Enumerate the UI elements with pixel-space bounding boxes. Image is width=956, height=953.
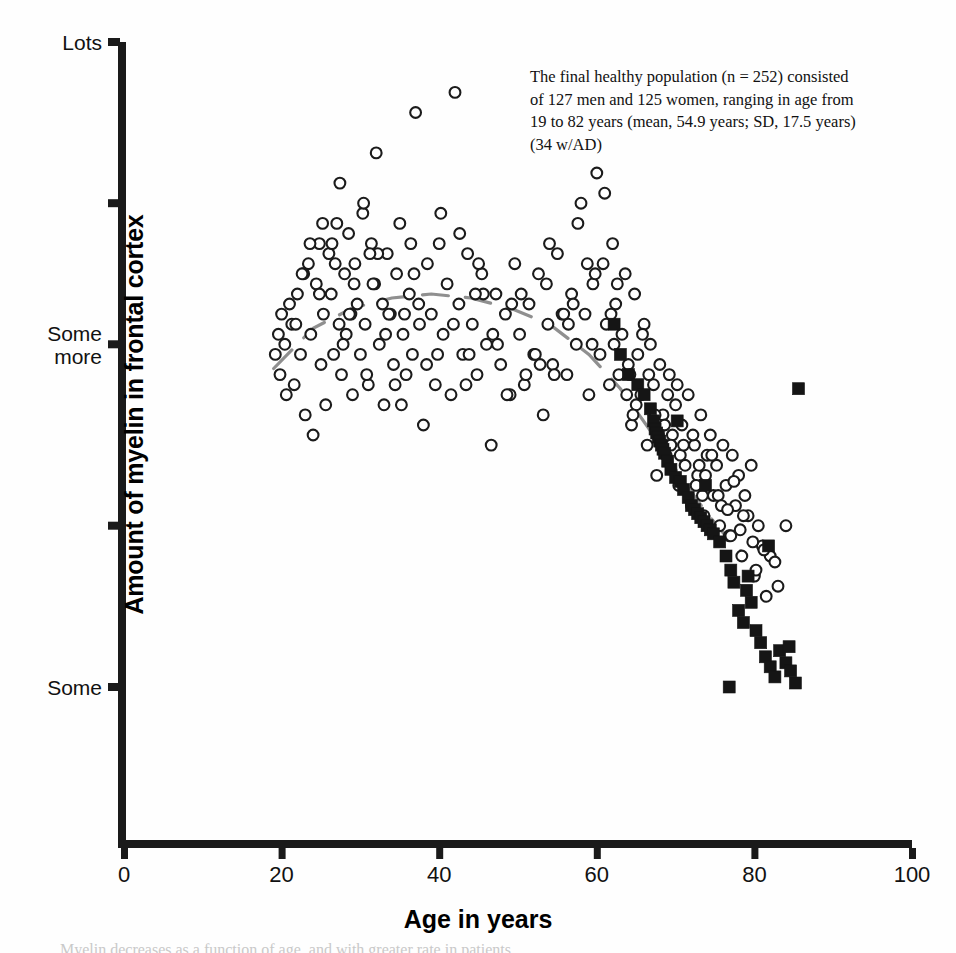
data-point-healthy <box>543 319 554 330</box>
data-point-ad <box>723 681 735 693</box>
data-point-healthy <box>380 329 391 340</box>
data-point-healthy <box>472 369 483 380</box>
data-point-ad <box>728 576 740 588</box>
data-point-healthy <box>626 420 637 431</box>
data-point-ad <box>644 403 656 415</box>
data-point-healthy <box>573 218 584 229</box>
data-point-healthy <box>347 389 358 400</box>
data-point-healthy <box>305 329 316 340</box>
data-point-healthy <box>595 349 606 360</box>
y-axis-title: Amount of myelin in frontal cortex <box>120 155 149 675</box>
data-point-ad <box>745 596 757 608</box>
data-point-ad <box>755 637 767 649</box>
x-tick-label: 60 <box>562 862 632 888</box>
data-point-healthy <box>432 349 443 360</box>
data-point-healthy <box>781 520 792 531</box>
data-point-healthy <box>521 369 532 380</box>
data-point-healthy <box>770 557 781 568</box>
data-point-healthy <box>390 379 401 390</box>
data-point-healthy <box>399 309 410 320</box>
data-point-healthy <box>609 339 620 350</box>
x-tick-mark <box>279 848 286 859</box>
data-point-healthy <box>462 248 473 259</box>
data-point-healthy <box>591 168 602 179</box>
data-point-healthy <box>568 299 579 310</box>
data-point-healthy <box>761 591 772 602</box>
data-point-healthy <box>576 198 587 209</box>
data-point-healthy <box>360 319 371 330</box>
data-point-healthy <box>588 279 599 290</box>
data-point-healthy <box>628 410 639 421</box>
data-point-healthy <box>604 379 615 390</box>
data-point-healthy <box>363 379 374 390</box>
data-point-healthy <box>678 440 689 451</box>
data-point-healthy <box>746 460 757 471</box>
data-point-healthy <box>297 268 308 279</box>
data-point-healthy <box>276 309 287 320</box>
data-point-healthy <box>450 87 461 98</box>
data-point-healthy <box>350 258 361 269</box>
x-tick-label: 40 <box>404 862 474 888</box>
data-point-healthy <box>773 581 784 592</box>
data-point-healthy <box>549 369 560 380</box>
data-point-healthy <box>368 279 379 290</box>
data-point-healthy <box>639 319 650 330</box>
data-point-healthy <box>473 258 484 269</box>
data-point-healthy <box>629 289 640 300</box>
data-point-healthy <box>607 238 618 249</box>
data-point-healthy <box>448 319 459 330</box>
data-point-healthy <box>383 309 394 320</box>
data-point-healthy <box>273 329 284 340</box>
data-point-healthy <box>621 389 632 400</box>
x-tick-mark <box>594 848 601 859</box>
data-point-healthy <box>500 309 511 320</box>
x-tick-mark <box>436 848 443 859</box>
data-point-ad <box>785 665 797 677</box>
data-point-healthy <box>355 349 366 360</box>
data-point-healthy <box>331 218 342 229</box>
x-tick-mark <box>751 848 758 859</box>
x-tick-mark <box>909 848 916 859</box>
data-point-healthy <box>279 339 290 350</box>
data-point-ad <box>789 677 801 689</box>
data-point-healthy <box>747 537 758 548</box>
data-point-healthy <box>582 258 593 269</box>
data-point-healthy <box>598 258 609 269</box>
data-point-healthy <box>409 268 420 279</box>
data-point-healthy <box>300 410 311 421</box>
data-point-ad <box>700 479 712 491</box>
data-point-healthy <box>706 450 717 461</box>
data-point-healthy <box>563 319 574 330</box>
data-point-healthy <box>662 389 673 400</box>
data-point-ad <box>793 383 805 395</box>
y-tick-label: Some <box>0 676 102 699</box>
data-point-healthy <box>295 349 306 360</box>
data-point-healthy <box>338 339 349 350</box>
data-point-healthy <box>343 228 354 239</box>
data-point-healthy <box>371 148 382 159</box>
data-point-healthy <box>438 329 449 340</box>
data-point-healthy <box>506 299 517 310</box>
y-tick-mark <box>108 683 120 691</box>
data-point-healthy <box>344 309 355 320</box>
data-point-healthy <box>637 329 648 340</box>
data-point-healthy <box>421 359 432 370</box>
data-point-ad <box>725 564 737 576</box>
data-point-healthy <box>689 440 700 451</box>
data-point-healthy <box>562 369 573 380</box>
y-tick-label: Lots <box>0 31 102 54</box>
data-point-healthy <box>695 410 706 421</box>
data-point-healthy <box>314 289 325 300</box>
data-point-healthy <box>672 379 683 390</box>
data-point-healthy <box>705 430 716 441</box>
data-point-healthy <box>461 379 472 390</box>
data-point-healthy <box>404 289 415 300</box>
x-axis-line <box>118 840 912 848</box>
data-point-ad <box>750 625 762 637</box>
data-point-healthy <box>394 218 405 229</box>
axes <box>118 42 912 848</box>
data-point-healthy <box>407 349 418 360</box>
data-point-ad <box>671 415 683 427</box>
data-point-healthy <box>547 359 558 370</box>
data-point-ad <box>714 536 726 548</box>
